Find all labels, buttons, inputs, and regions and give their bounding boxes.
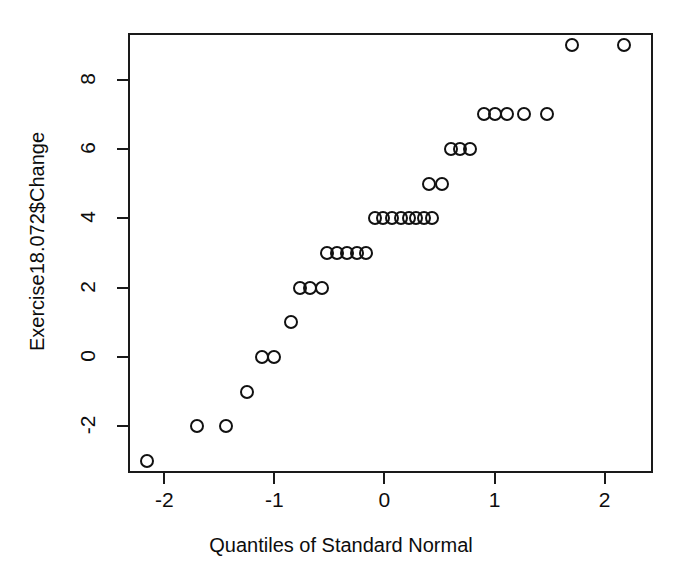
x-tick-mark — [383, 473, 385, 484]
y-axis-title-container: Exercise18.072$Change — [20, 0, 54, 500]
y-tick-mark — [117, 79, 128, 81]
x-tick-mark — [604, 473, 606, 484]
y-tick-mark — [117, 287, 128, 289]
x-axis-title: Quantiles of Standard Normal — [0, 534, 682, 557]
y-tick-label: 0 — [76, 336, 100, 376]
y-tick-mark — [117, 356, 128, 358]
y-tick-label: 8 — [76, 59, 100, 99]
x-tick-label: 2 — [575, 488, 635, 512]
y-axis-title: Exercise18.072$Change — [26, 25, 49, 459]
qq-plot-figure: -2-1012 -202468 Quantiles of Standard No… — [0, 0, 682, 586]
x-tick-label: -2 — [134, 488, 194, 512]
x-tick-label: 0 — [354, 488, 414, 512]
y-tick-label: -2 — [76, 405, 100, 445]
x-tick-mark — [494, 473, 496, 484]
plot-frame — [128, 33, 653, 473]
x-tick-mark — [273, 473, 275, 484]
x-tick-mark — [163, 473, 165, 484]
x-tick-label: -1 — [244, 488, 304, 512]
y-tick-label: 6 — [76, 128, 100, 168]
y-tick-label: 4 — [76, 197, 100, 237]
y-tick-label: 2 — [76, 267, 100, 307]
y-tick-mark — [117, 217, 128, 219]
y-tick-mark — [117, 148, 128, 150]
x-tick-label: 1 — [465, 488, 525, 512]
y-tick-mark — [117, 425, 128, 427]
